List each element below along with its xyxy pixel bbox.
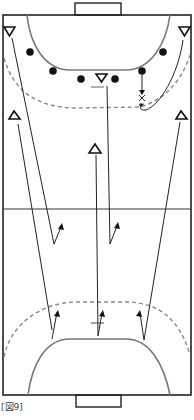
bottom-free-throw-line — [4, 302, 190, 357]
defenders — [26, 48, 167, 83]
movement-paths — [12, 38, 183, 340]
defender-marker — [26, 48, 34, 56]
path-left-long — [18, 124, 52, 330]
path-center-long — [96, 155, 98, 336]
path-right-long — [144, 122, 180, 340]
path-center-top — [107, 86, 110, 244]
top-goal — [75, 3, 121, 15]
top-goal-area-line — [27, 15, 170, 70]
arrow-icon — [99, 310, 105, 317]
arrow-icon — [58, 223, 64, 230]
path-right-cut — [140, 313, 144, 340]
defender-marker — [111, 75, 119, 83]
attacker-marker-up — [9, 111, 20, 119]
attacker-marker-down — [96, 74, 107, 82]
attacker-marker-down — [4, 27, 15, 36]
defender-marker — [49, 67, 57, 75]
ball-position-mark — [139, 95, 145, 101]
path-center-bottom-cut — [98, 313, 102, 336]
defender-marker — [138, 67, 146, 75]
defender-marker — [159, 48, 167, 56]
attacker-marker-up — [176, 111, 187, 119]
handball-court-diagram — [0, 0, 194, 420]
attacker-marker-up — [89, 144, 101, 153]
arrow-icon — [54, 310, 60, 317]
arrow-icon — [136, 310, 142, 317]
arrowheads — [54, 90, 145, 317]
top-free-throw-line — [4, 55, 190, 108]
bottom-goal-area-line — [28, 339, 170, 395]
arrow-icon — [114, 222, 120, 229]
defender-marker — [77, 75, 85, 83]
arrow-icon — [139, 90, 145, 95]
figure-caption: [図9] — [1, 400, 23, 413]
bottom-goal — [76, 395, 121, 407]
attacker-marker-down — [179, 27, 190, 36]
path-center-cut — [110, 226, 117, 244]
path-left-wing-cut — [54, 227, 61, 244]
ball-icon — [139, 103, 143, 107]
